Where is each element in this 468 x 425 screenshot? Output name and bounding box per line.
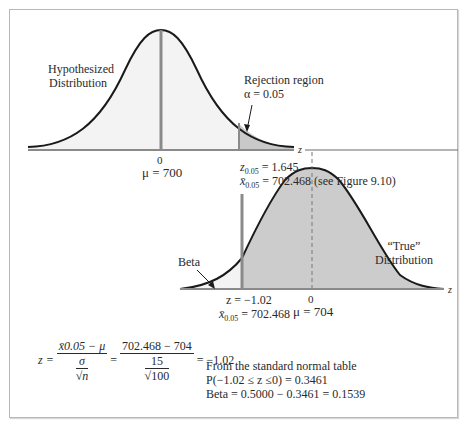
- formula-den1-bottom: √n: [76, 369, 89, 383]
- formula-den2-bottom: √100: [145, 369, 170, 383]
- true-distribution-label: “True” Distribution: [374, 239, 434, 267]
- hypothesized-label-line2: Distribution: [48, 76, 108, 90]
- lower-x-sub: 0.05: [224, 314, 238, 323]
- formula-num2: 702.468 − 704: [120, 339, 194, 354]
- formula-den2: 15√100: [120, 354, 194, 383]
- normal-table-note: From the standard normal table P(−1.02 ≤…: [206, 359, 365, 401]
- lower-x-value: = 702.468: [238, 307, 290, 321]
- critical-x-value: = 702.468 (see Figure 9.10): [259, 174, 395, 188]
- formula-eq: =: [110, 353, 120, 367]
- hypothesized-mu: μ = 700: [142, 166, 182, 180]
- formula-den1: σ√n: [57, 354, 107, 383]
- beta-label: Beta: [178, 255, 200, 269]
- bottom-axis-z-label: z: [448, 283, 452, 297]
- hypothesized-label-line1: Hypothesized: [48, 62, 108, 76]
- z-formula: z = x̄0.05 − μ σ√n = 702.468 − 704 15√10…: [38, 339, 234, 383]
- formula-frac1: x̄0.05 − μ σ√n: [57, 339, 107, 383]
- critical-x-label: x̄0.05 = 702.468 (see Figure 9.10): [240, 174, 396, 193]
- table-note-line3: Beta = 0.5000 − 0.3461 = 0.1539: [206, 387, 365, 401]
- alpha-label: α = 0.05: [244, 87, 284, 101]
- formula-den2-top: 15: [145, 354, 170, 369]
- top-axis-z-label: z: [298, 143, 302, 157]
- true-mu: μ = 704: [293, 305, 333, 319]
- rejection-region-label: Rejection region: [244, 73, 324, 87]
- true-label-line1: “True”: [374, 239, 434, 253]
- critical-x-sub: 0.05: [245, 181, 259, 190]
- formula-den1-top: σ: [76, 354, 89, 369]
- lower-z-label: z = −1.02: [226, 293, 272, 307]
- true-label-line2: Distribution: [374, 253, 434, 267]
- lower-x-label: x̄0.05 = 702.468: [219, 307, 290, 326]
- hypothesized-label: Hypothesized Distribution: [48, 62, 108, 90]
- formula-num1: x̄0.05 − μ: [57, 339, 107, 354]
- formula-frac2: 702.468 − 704 15√100: [120, 339, 194, 383]
- formula-lhs: z =: [38, 353, 57, 367]
- critical-z-value: = 1.645: [259, 160, 299, 174]
- table-note-line1: From the standard normal table: [206, 359, 365, 373]
- table-note-line2: P(−1.02 ≤ z ≤0) = 0.3461: [206, 373, 365, 387]
